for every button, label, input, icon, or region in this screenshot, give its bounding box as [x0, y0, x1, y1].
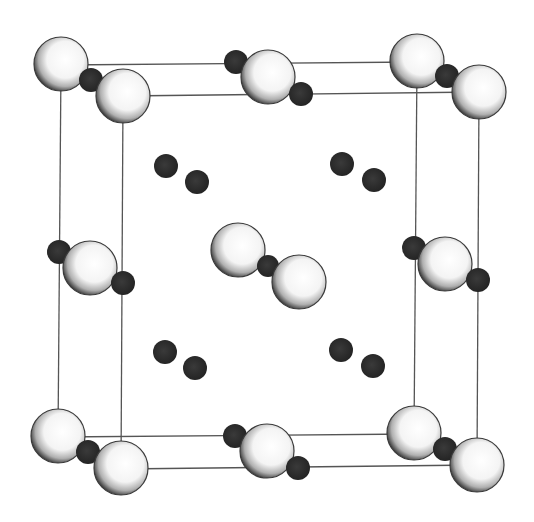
small-atom — [185, 170, 209, 194]
small-atom — [329, 338, 353, 362]
large-atom — [211, 223, 265, 277]
large-atom — [96, 69, 150, 123]
large-atom — [240, 424, 294, 478]
large-atom — [241, 50, 295, 104]
small-atom — [361, 354, 385, 378]
atoms-layer — [31, 34, 506, 495]
small-atom — [289, 82, 313, 106]
crystal-structure-diagram: Crystal structure unit cell — [0, 0, 534, 522]
large-atom — [272, 255, 326, 309]
small-atom — [183, 356, 207, 380]
small-atom — [466, 268, 490, 292]
small-atom — [154, 154, 178, 178]
small-atom — [286, 456, 310, 480]
large-atom — [94, 441, 148, 495]
small-atom — [153, 340, 177, 364]
unit-cell-canvas — [0, 0, 534, 522]
large-atom — [450, 438, 504, 492]
small-atom — [330, 152, 354, 176]
large-atom — [418, 237, 472, 291]
large-atom — [452, 65, 506, 119]
small-atom — [111, 271, 135, 295]
large-atom — [387, 406, 441, 460]
large-atom — [63, 241, 117, 295]
small-atom — [362, 168, 386, 192]
